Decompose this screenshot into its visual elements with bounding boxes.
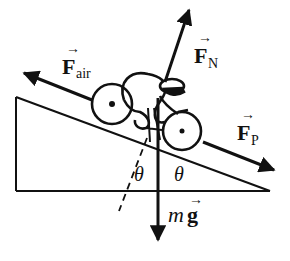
svg-text:m: m (168, 202, 184, 227)
force-normal-label: → F N (194, 30, 218, 71)
svg-text:air: air (76, 66, 91, 81)
svg-text:F: F (237, 120, 250, 145)
free-body-diagram: → F air → F N → F P m → g θ θ (0, 0, 290, 261)
normal-force-arrow (165, 10, 189, 82)
svg-text:F: F (62, 54, 75, 79)
angle-label-right: θ (174, 163, 184, 185)
svg-text:P: P (251, 133, 259, 148)
gravity-label: m → g (168, 192, 203, 227)
svg-text:F: F (194, 43, 207, 68)
angle-label-left: θ (134, 163, 144, 185)
svg-text:g: g (187, 202, 198, 227)
svg-text:N: N (208, 56, 218, 71)
push-force-arrow (203, 142, 274, 170)
force-air-label: → F air (62, 41, 91, 81)
force-push-label: → F P (237, 107, 259, 148)
